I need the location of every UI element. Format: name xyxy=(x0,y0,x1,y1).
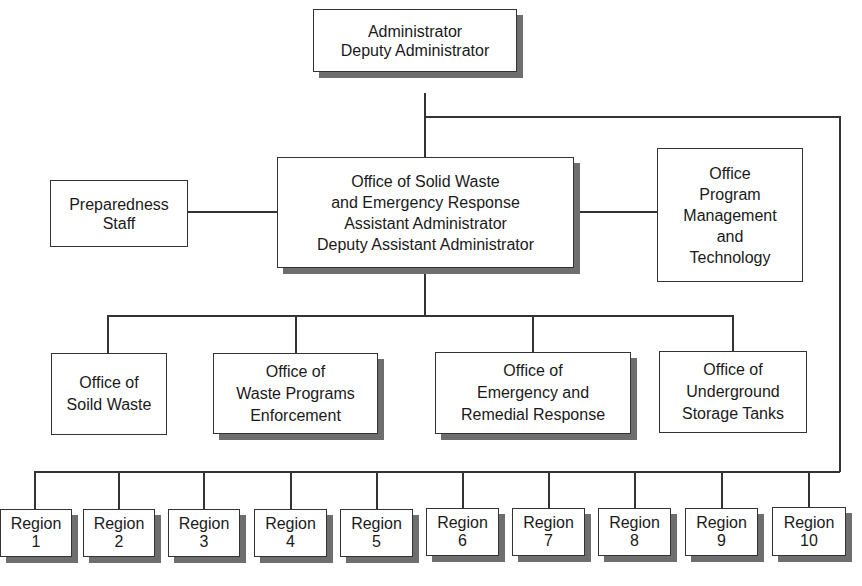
region-box: Region 8 xyxy=(598,508,671,556)
underground-tanks-line-1: Office of xyxy=(703,359,762,381)
region-label: Region xyxy=(523,514,574,532)
connector-region-7 xyxy=(548,471,550,508)
connector-region-8 xyxy=(634,471,636,508)
connector-opmt xyxy=(578,211,657,213)
region-box: Region 3 xyxy=(168,509,240,557)
region-label: Region xyxy=(351,515,402,533)
region-box: Region 6 xyxy=(426,508,499,556)
region-label: Region xyxy=(265,515,316,533)
region-box: Region 2 xyxy=(83,509,155,557)
connector-region-1 xyxy=(34,471,36,509)
connector-preparedness xyxy=(188,211,277,213)
underground-tanks-line-2: Underground xyxy=(686,381,779,403)
connector-office-2 xyxy=(295,315,297,353)
office-waste-enforcement-box: Office of Waste Programs Enforcement xyxy=(213,353,378,434)
waste-enforcement-line-1: Office of xyxy=(266,361,325,383)
opmt-line-2: Program xyxy=(699,184,760,205)
waste-enforcement-line-2: Waste Programs xyxy=(236,383,355,405)
region-label: Region xyxy=(696,514,747,532)
connector-office-4 xyxy=(732,315,734,353)
region-number: 2 xyxy=(115,533,124,551)
preparedness-line-2: Staff xyxy=(103,214,136,233)
solid-waste-line-1: Office of xyxy=(79,372,138,394)
region-label: Region xyxy=(11,515,62,533)
region-box: Region 1 xyxy=(0,509,72,557)
preparedness-staff-box: Preparedness Staff xyxy=(50,180,188,247)
region-box: Region 10 xyxy=(772,507,846,556)
opmt-line-3: Management xyxy=(683,205,776,226)
office-solid-waste-box: Office of Soild Waste xyxy=(51,353,167,435)
connector-region-4 xyxy=(290,471,292,509)
region-label: Region xyxy=(94,515,145,533)
connector-regions-top xyxy=(425,116,840,118)
emergency-remedial-line-3: Remedial Response xyxy=(461,404,605,426)
oswer-line-2: and Emergency Response xyxy=(331,192,520,213)
opmt-line-4: and xyxy=(717,226,744,247)
office-underground-tanks-box: Office of Underground Storage Tanks xyxy=(659,351,807,433)
region-box: Region 4 xyxy=(254,509,327,557)
region-number: 3 xyxy=(200,533,209,551)
region-number: 7 xyxy=(544,532,553,550)
waste-enforcement-line-3: Enforcement xyxy=(250,405,341,427)
region-number: 6 xyxy=(458,532,467,550)
connector-region-9 xyxy=(721,471,723,508)
region-number: 9 xyxy=(717,532,726,550)
emergency-remedial-line-2: Emergency and xyxy=(477,382,589,404)
connector-admin-down xyxy=(424,93,426,157)
office-emergency-remedial-box: Office of Emergency and Remedial Respons… xyxy=(435,352,631,434)
region-box: Region 9 xyxy=(685,508,758,556)
oswer-box: Office of Solid Waste and Emergency Resp… xyxy=(277,157,574,268)
underground-tanks-line-3: Storage Tanks xyxy=(682,403,784,425)
solid-waste-line-2: Soild Waste xyxy=(67,394,152,416)
oswer-line-4: Deputy Assistant Administrator xyxy=(317,234,534,255)
region-box: Region 5 xyxy=(340,509,413,557)
connector-region-5 xyxy=(376,471,378,509)
administrator-box: Administrator Deputy Administrator xyxy=(313,9,517,72)
emergency-remedial-line-1: Office of xyxy=(503,360,562,382)
region-label: Region xyxy=(437,514,488,532)
connector-region-3 xyxy=(203,471,205,509)
connector-offices-bar xyxy=(107,315,734,317)
connector-regions-bar xyxy=(34,471,840,473)
region-number: 8 xyxy=(630,532,639,550)
connector-office-1 xyxy=(107,315,109,353)
region-number: 5 xyxy=(372,533,381,551)
administrator-line-1: Administrator xyxy=(368,22,462,41)
region-number: 4 xyxy=(286,533,295,551)
connector-region-2 xyxy=(118,471,120,509)
preparedness-line-1: Preparedness xyxy=(69,195,169,214)
region-label: Region xyxy=(179,515,230,533)
region-number: 10 xyxy=(800,532,818,550)
opmt-box: Office Program Management and Technology xyxy=(657,148,803,282)
connector-oswer-down xyxy=(424,268,426,316)
oswer-line-3: Assistant Administrator xyxy=(344,213,507,234)
connector-region-6 xyxy=(462,471,464,508)
oswer-line-1: Office of Solid Waste xyxy=(351,171,500,192)
region-box: Region 7 xyxy=(512,508,585,556)
connector-region-10 xyxy=(808,471,810,507)
opmt-line-5: Technology xyxy=(690,247,771,268)
connector-office-3 xyxy=(532,315,534,353)
region-label: Region xyxy=(609,514,660,532)
region-number: 1 xyxy=(32,533,41,551)
region-label: Region xyxy=(784,514,835,532)
administrator-line-2: Deputy Administrator xyxy=(341,41,490,60)
opmt-line-1: Office xyxy=(709,163,751,184)
connector-regions-right xyxy=(839,116,841,472)
